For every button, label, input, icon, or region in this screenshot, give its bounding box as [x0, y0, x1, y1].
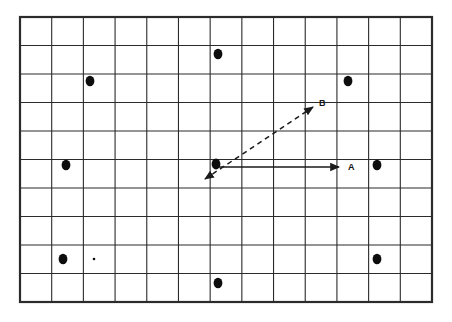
dot-1 [214, 49, 223, 59]
dot-7 [373, 254, 382, 264]
grid-lines [20, 17, 432, 302]
dot-2 [86, 76, 95, 86]
dot-8 [214, 278, 223, 288]
dot-speck [93, 258, 96, 261]
vector-a-label: A [348, 163, 355, 172]
vector-field-diagram [0, 0, 452, 322]
figure-canvas: AB [0, 0, 452, 322]
vector-b [205, 107, 313, 179]
vector-b-label: B [319, 99, 326, 108]
dot-3 [344, 76, 353, 86]
dot-4 [62, 160, 71, 170]
dot-origin [212, 159, 221, 170]
dot-5 [373, 160, 382, 170]
dot-6 [59, 254, 68, 264]
vector-arrows [205, 107, 339, 179]
